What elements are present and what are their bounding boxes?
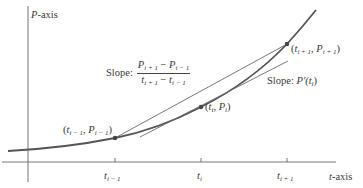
minus: − xyxy=(158,59,169,70)
p-axis-suffix: -axis xyxy=(37,9,57,20)
point-i xyxy=(199,105,203,109)
point-label-i-plus-1: (ti + 1, Pi + 1) xyxy=(291,44,340,56)
diagram-canvas xyxy=(0,0,363,188)
fraction-numerator: Pi + 1 − Pi − 1 xyxy=(137,60,190,74)
point-i-minus-1 xyxy=(113,136,117,140)
fraction-denominator: ti + 1 − ti − 1 xyxy=(141,74,185,87)
paren: ) xyxy=(336,43,340,54)
paren: ) xyxy=(227,101,231,112)
den-a-sub: i + 1 xyxy=(144,79,158,87)
p-sub: i + 1 xyxy=(323,48,337,56)
point-label-i-minus-1: (ti − 1, Pi − 1) xyxy=(63,125,112,137)
tick-sub: i + 1 xyxy=(280,175,294,183)
num-a-sub: i + 1 xyxy=(144,64,158,72)
tick-sub: i − 1 xyxy=(107,175,121,183)
t-axis-suffix: -axis xyxy=(332,171,352,182)
p-axis-label: P-axis xyxy=(31,10,58,21)
t-axis-label: t-axis xyxy=(329,172,352,183)
minus: − xyxy=(158,74,169,85)
point-label-i: (ti, Pi) xyxy=(205,102,231,114)
paren: ) xyxy=(314,75,318,86)
slope-prefix: Slope: xyxy=(267,75,296,86)
tick-label-t-i: ti xyxy=(197,171,202,183)
tick-label-t-i-plus-1: ti + 1 xyxy=(277,171,294,183)
p-sub: i − 1 xyxy=(95,129,109,137)
t-sub: i + 1 xyxy=(297,48,311,56)
paren: ) xyxy=(108,124,112,135)
secant-slope-label: Slope: Pi + 1 − Pi − 1 ti + 1 − ti − 1 xyxy=(106,60,190,87)
t-sub: i − 1 xyxy=(69,129,83,137)
tick-sub: i xyxy=(200,175,202,183)
num-b-sub: i − 1 xyxy=(176,64,190,72)
slope-prefix: Slope: xyxy=(106,68,133,79)
tick-label-t-i-minus-1: ti − 1 xyxy=(104,171,121,183)
tangent-slope-label: Slope: P′(ti) xyxy=(267,76,317,88)
point-i-plus-1 xyxy=(285,42,289,46)
slope-fraction: Pi + 1 − Pi − 1 ti + 1 − ti − 1 xyxy=(137,60,190,87)
derivative-func: P′( xyxy=(296,75,308,86)
den-b-sub: i − 1 xyxy=(172,79,186,87)
